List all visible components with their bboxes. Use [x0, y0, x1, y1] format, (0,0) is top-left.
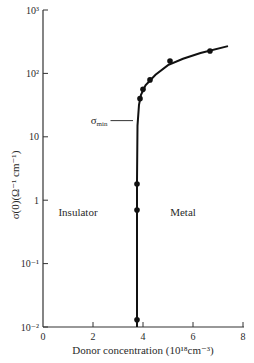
x-axis-label: Donor concentration (10¹⁸cm⁻³)	[72, 344, 214, 357]
region-label-metal: Metal	[170, 206, 196, 218]
data-point	[207, 48, 213, 54]
y-tick-label: 10²	[26, 68, 39, 79]
data-point	[137, 96, 143, 102]
chart: 10⁻²10⁻¹11010²10³02468Donor concentratio…	[0, 0, 254, 363]
data-point	[140, 87, 146, 93]
data-point	[167, 58, 173, 64]
x-tick-label: 0	[41, 331, 46, 342]
data-point	[134, 317, 140, 323]
y-tick-label: 1	[34, 195, 39, 206]
region-label-insulator: Insulator	[58, 206, 97, 218]
y-tick-label: 10	[29, 131, 39, 142]
y-tick-label: 10³	[26, 5, 39, 16]
y-tick-label: 10⁻²	[21, 322, 39, 333]
data-point	[147, 77, 153, 83]
y-axis-label: σ(0)(Ω⁻¹ cm⁻¹)	[9, 150, 22, 219]
x-tick-label: 6	[191, 331, 196, 342]
x-tick-label: 8	[241, 331, 246, 342]
y-tick-label: 10⁻¹	[21, 258, 39, 269]
data-point	[134, 207, 140, 213]
data-point	[134, 181, 140, 187]
x-tick-label: 4	[141, 331, 146, 342]
x-tick-label: 2	[91, 331, 96, 342]
fit-curve	[137, 46, 228, 327]
sigma-min-label: σmin	[91, 114, 108, 128]
